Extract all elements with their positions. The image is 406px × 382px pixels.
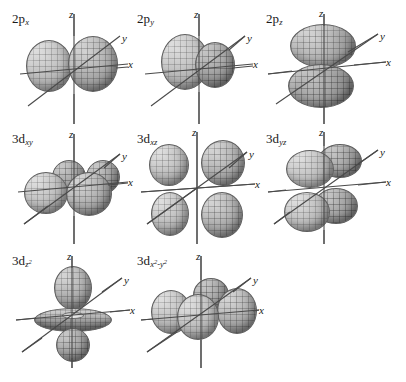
orbital-panel-3dx2-y2: 3dx2-y2 z y x bbox=[133, 248, 265, 372]
axis-label-z: z bbox=[69, 8, 73, 20]
orbital-panel-3dxz: 3dxz z y x bbox=[133, 126, 265, 250]
orbital-figure: 2px z y x 2py bbox=[0, 0, 406, 382]
axis-label-x: x bbox=[255, 178, 260, 190]
axis-label-y: y bbox=[247, 32, 252, 44]
axis-label-y: y bbox=[124, 274, 129, 286]
axis-label-z: z bbox=[67, 250, 71, 262]
orbital-label-2pz: 2pz bbox=[266, 12, 283, 27]
axis-label-x: x bbox=[259, 304, 264, 316]
axis-label-y: y bbox=[249, 148, 254, 160]
axis-label-z: z bbox=[319, 126, 323, 138]
orbital-label-2py: 2py bbox=[137, 12, 154, 27]
orbital-panel-2px: 2px z y x bbox=[8, 6, 140, 130]
orbital-label-3dz2: 3dz2 bbox=[12, 254, 32, 269]
orbital-label-3dxy: 3dxy bbox=[12, 132, 33, 147]
orbital-panel-2pz: 2pz z y x bbox=[262, 6, 394, 130]
axis-label-x: x bbox=[130, 304, 135, 316]
axis-label-y: y bbox=[122, 150, 127, 162]
axis-label-x: x bbox=[128, 176, 133, 188]
orbital-panel-empty bbox=[262, 248, 394, 372]
orbital-label-3dx2-y2: 3dx2-y2 bbox=[137, 254, 167, 269]
orbital-label-3dxz: 3dxz bbox=[137, 132, 157, 147]
orbital-panel-3dz2: 3dz2 z y x bbox=[8, 248, 140, 372]
axis-label-x: x bbox=[386, 56, 391, 68]
axis-label-x: x bbox=[386, 176, 391, 188]
axis-label-z: z bbox=[196, 250, 200, 262]
axis-label-y: y bbox=[380, 30, 385, 42]
axis-label-x: x bbox=[253, 58, 258, 70]
axis-label-x: x bbox=[128, 58, 133, 70]
orbital-panel-3dyz: 3dyz z y x bbox=[262, 126, 394, 250]
axis-label-z: z bbox=[192, 126, 196, 138]
axis-label-z: z bbox=[69, 128, 73, 140]
orbital-label-2px: 2px bbox=[12, 12, 29, 27]
axis-label-y: y bbox=[122, 32, 127, 44]
orbital-label-3dyz: 3dyz bbox=[266, 132, 286, 147]
axis-label-y: y bbox=[253, 274, 258, 286]
orbital-panel-2py: 2py z y x bbox=[133, 6, 265, 130]
orbital-panel-3dxy: 3dxy z y x bbox=[8, 126, 140, 250]
axis-label-z: z bbox=[319, 7, 323, 19]
axis-label-y: y bbox=[380, 146, 385, 158]
axis-label-z: z bbox=[194, 8, 198, 20]
